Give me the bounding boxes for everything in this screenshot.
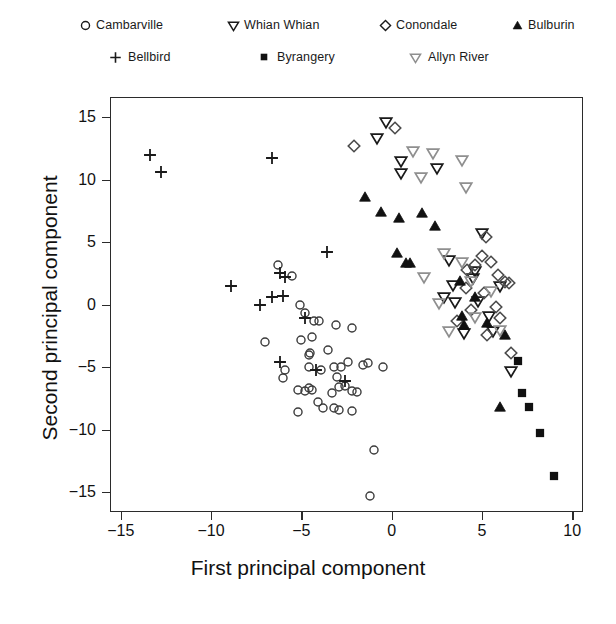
data-point-cambarville	[341, 355, 356, 370]
data-point-allyn-river	[457, 179, 474, 196]
y-tick	[102, 492, 110, 493]
x-tick-label: −5	[292, 522, 310, 540]
triangle-up-filled-icon	[506, 14, 528, 36]
data-point-bellbird	[277, 269, 294, 286]
legend-item-bellbird[interactable]: Bellbird	[104, 44, 171, 70]
data-point-allyn-river	[425, 145, 442, 162]
data-point-allyn-river	[430, 295, 447, 312]
data-point-bulburin	[456, 317, 472, 333]
y-tick-label: −15	[69, 483, 96, 501]
data-point-cambarville	[294, 332, 309, 347]
legend-item-bulburin[interactable]: Bulburin	[506, 12, 575, 38]
y-tick-label: −10	[69, 421, 96, 439]
data-point-cambarville	[258, 335, 273, 350]
data-point-cambarville	[290, 405, 305, 420]
x-tick-label: −10	[198, 522, 225, 540]
triangle-down-gray-icon	[404, 46, 426, 68]
y-tick	[102, 180, 110, 181]
data-point-allyn-river	[454, 151, 471, 168]
data-point-conondale	[500, 275, 517, 292]
legend-item-byrangery[interactable]: Byrangery	[253, 44, 335, 70]
data-point-cambarville	[344, 403, 359, 418]
x-tick-label: 10	[563, 522, 581, 540]
plus-icon	[104, 46, 126, 68]
data-point-whian-whian	[369, 130, 386, 147]
legend-item-whian-whian[interactable]: Whian Whian	[222, 12, 319, 38]
data-point-byrangery	[547, 468, 562, 483]
data-point-allyn-river	[412, 169, 429, 186]
data-point-byrangery	[514, 386, 529, 401]
data-point-bellbird	[307, 361, 324, 378]
data-point-bulburin	[391, 210, 407, 226]
data-point-bulburin	[479, 315, 495, 331]
y-tick	[102, 430, 110, 431]
data-point-bellbird	[336, 372, 353, 389]
data-point-conondale	[345, 137, 362, 154]
data-point-allyn-river	[405, 142, 422, 159]
y-tick-label: −5	[78, 358, 96, 376]
x-tick	[121, 512, 122, 520]
legend-item-allyn-river[interactable]: Allyn River	[404, 44, 489, 70]
scatter-plot-figure: CambarvilleWhian WhianConondaleBulburinB…	[0, 0, 616, 624]
data-point-bellbird	[318, 244, 335, 261]
y-tick-label: 15	[78, 108, 96, 126]
data-point-byrangery	[521, 400, 536, 415]
legend-item-conondale[interactable]: Conondale	[374, 12, 457, 38]
y-tick-label: 10	[78, 171, 96, 189]
data-point-bellbird	[222, 277, 239, 294]
data-point-cambarville	[321, 342, 336, 357]
data-point-allyn-river	[482, 282, 499, 299]
data-point-cambarville	[361, 356, 376, 371]
legend-row: BellbirdByrangeryAllyn River	[0, 44, 616, 70]
triangle-down-open-icon	[222, 14, 244, 36]
data-point-bulburin	[497, 327, 513, 343]
x-tick	[211, 512, 212, 520]
x-tick-label: −15	[107, 522, 134, 540]
y-tick	[102, 367, 110, 368]
plot-data-area	[110, 97, 583, 512]
x-tick-label: 0	[387, 522, 396, 540]
data-point-bellbird	[296, 310, 313, 327]
data-point-whian-whian	[428, 160, 445, 177]
data-point-allyn-river	[454, 254, 471, 271]
data-point-cambarville	[362, 488, 377, 503]
circle-open-icon	[74, 14, 96, 36]
x-tick-label: 5	[477, 522, 486, 540]
data-point-bulburin	[492, 399, 508, 415]
legend-label: Conondale	[396, 18, 457, 32]
square-filled-icon	[253, 46, 275, 68]
data-point-conondale	[477, 229, 494, 246]
data-point-bulburin	[402, 255, 418, 271]
data-point-bellbird	[141, 146, 158, 163]
data-point-allyn-river	[435, 245, 452, 262]
x-tick	[301, 512, 302, 520]
data-point-bellbird	[152, 164, 169, 181]
data-point-bulburin	[357, 189, 373, 205]
data-point-cambarville	[375, 360, 390, 375]
y-tick-label: 0	[87, 296, 96, 314]
data-point-whian-whian	[392, 165, 409, 182]
data-point-conondale	[387, 120, 404, 137]
y-tick-label: 5	[87, 233, 96, 251]
legend-label: Bulburin	[528, 18, 575, 32]
legend-row: CambarvilleWhian WhianConondaleBulburin	[0, 12, 616, 38]
y-axis-title: Second principal component	[38, 98, 62, 518]
diamond-open-icon	[374, 14, 396, 36]
x-axis-title: First principal component	[0, 556, 616, 580]
legend-label: Allyn River	[428, 50, 489, 64]
data-point-bulburin	[373, 204, 389, 220]
data-point-byrangery	[532, 426, 547, 441]
legend-item-cambarville[interactable]: Cambarville	[74, 12, 163, 38]
y-tick	[102, 242, 110, 243]
data-point-cambarville	[328, 317, 343, 332]
data-point-cambarville	[366, 442, 381, 457]
data-point-bulburin	[427, 218, 443, 234]
x-tick	[482, 512, 483, 520]
data-point-cambarville	[276, 371, 291, 386]
data-point-conondale	[502, 345, 519, 362]
legend: CambarvilleWhian WhianConondaleBulburinB…	[0, 12, 616, 76]
y-tick	[102, 305, 110, 306]
legend-label: Bellbird	[128, 50, 171, 64]
legend-label: Cambarville	[96, 18, 163, 32]
data-point-cambarville	[312, 313, 327, 328]
